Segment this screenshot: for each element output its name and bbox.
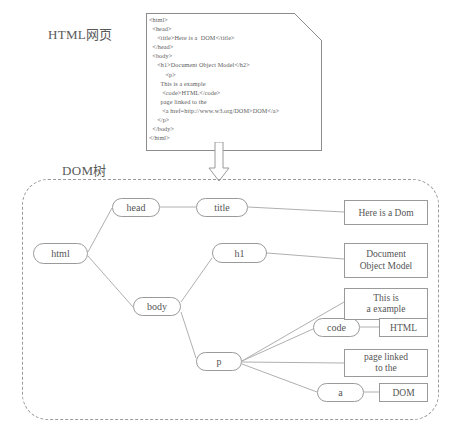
code-line: </p> xyxy=(149,115,323,124)
code-line: This is a example xyxy=(149,79,323,88)
code-line: page linked to the xyxy=(149,97,323,106)
tree-node-title[interactable]: title xyxy=(196,198,248,217)
text-node-h1-content: DocumentObject Model xyxy=(344,243,428,278)
code-line: <p> xyxy=(149,70,323,79)
code-line: <head> xyxy=(149,24,323,33)
code-line: </head> xyxy=(149,42,323,51)
html-page-label: HTML网页 xyxy=(48,24,113,43)
code-line: <code>HTML</code> xyxy=(149,88,323,97)
tree-node-html[interactable]: html xyxy=(33,243,88,264)
diagram-root: HTML网页 DOM树 <html> <head> <title>Here is… xyxy=(0,0,460,428)
text-node-a-content: DOM xyxy=(379,383,428,402)
code-line: <title>Here is a DOM</title> xyxy=(149,33,323,42)
code-line: <a href=http://www.w3.org/DOM>DOM</a> xyxy=(149,106,323,115)
tree-node-head[interactable]: head xyxy=(112,198,160,217)
code-line: <h1>Document Object Model</h2> xyxy=(149,60,323,69)
tree-node-body[interactable]: body xyxy=(133,297,181,316)
code-line: </body> xyxy=(149,124,323,133)
text-node-title-content: Here is a Dom xyxy=(344,200,428,225)
down-arrow-icon xyxy=(205,142,233,182)
html-source-code: <html> <head> <title>Here is a DOM</titl… xyxy=(149,15,323,151)
text-node-p-content-1: This isa example xyxy=(344,288,428,320)
text-node-code-content: HTML xyxy=(379,318,428,337)
text-node-p-content-2: page linkedto the xyxy=(344,349,428,377)
code-line: <html> xyxy=(149,15,323,24)
tree-node-p[interactable]: p xyxy=(196,352,242,371)
tree-node-code[interactable]: code xyxy=(313,318,360,337)
code-line: <body> xyxy=(149,51,323,60)
code-line: </html> xyxy=(149,133,323,142)
dom-tree-label: DOM树 xyxy=(62,160,107,179)
tree-node-h1[interactable]: h1 xyxy=(212,243,267,263)
tree-node-a[interactable]: a xyxy=(317,383,364,402)
